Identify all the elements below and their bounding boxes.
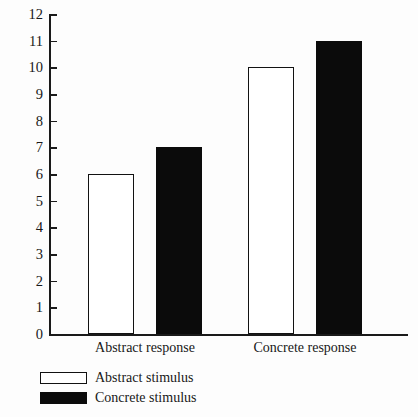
bar [88,174,134,334]
y-tick-mark [50,201,57,203]
y-tick-label: 11 [29,33,43,48]
y-tick-label: 8 [36,113,43,128]
y-tick-mark [50,307,57,309]
y-tick-mark [50,281,57,283]
y-tick-mark [50,14,57,16]
y-tick-mark [50,94,57,96]
y-tick-mark [50,254,57,256]
chart-figure: Correct 0123456789101112 Abstract respon… [0,0,418,417]
y-tick-label: 6 [36,167,43,182]
x-axis-group-label: Abstract response [95,340,195,356]
y-tick-label: 2 [36,273,43,288]
x-axis-line [49,334,408,336]
legend-item: Concrete stimulus [40,390,300,406]
y-tick-mark [50,174,57,176]
y-tick-label: 5 [36,193,43,208]
y-tick-label: 9 [36,87,43,102]
y-tick-mark [50,147,57,149]
y-tick-label: 0 [36,327,43,342]
bar [248,67,294,334]
bar [316,41,362,334]
x-axis-group-label: Concrete response [253,340,356,356]
legend-label: Concrete stimulus [95,390,197,406]
y-tick-mark [50,121,57,123]
plot-area: 0123456789101112 Abstract responseConcre… [49,14,408,334]
legend-swatch [40,392,87,404]
legend-swatch [40,372,87,384]
legend-label: Abstract stimulus [95,370,193,386]
chart-legend: Abstract stimulusConcrete stimulus [40,370,300,410]
y-tick-label: 12 [29,7,44,22]
y-tick-label: 3 [36,247,43,262]
y-tick-label: 4 [36,220,43,235]
y-tick-label: 10 [29,60,44,75]
y-tick-mark [50,41,57,43]
legend-item: Abstract stimulus [40,370,300,386]
y-tick-mark [50,67,57,69]
y-tick-mark [50,334,57,336]
y-tick-mark [50,227,57,229]
bar [156,147,202,334]
y-tick-label: 7 [36,140,43,155]
y-tick-label: 1 [36,300,43,315]
